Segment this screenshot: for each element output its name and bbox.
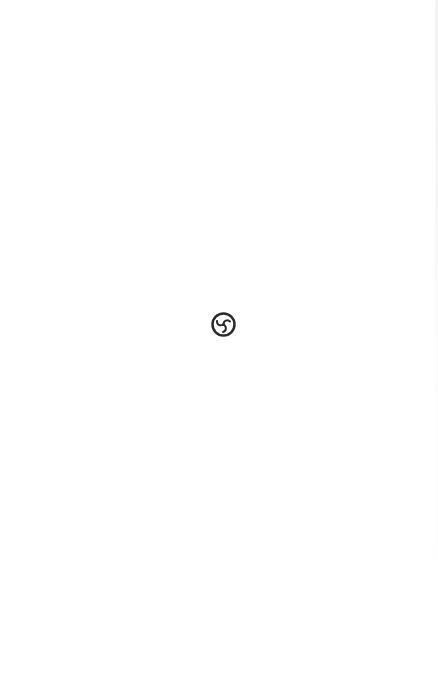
loading-screen: Loading <box>0 0 438 684</box>
loading-spinner: Loading <box>211 312 236 337</box>
swirl-logo-icon <box>211 312 236 337</box>
